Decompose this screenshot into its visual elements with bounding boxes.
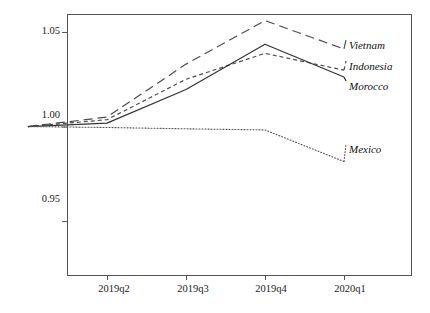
series-line-vietnam (28, 21, 344, 127)
series-label-vietnam: Vietnam (349, 39, 385, 51)
series-line-morocco (28, 44, 344, 126)
series-leader-indonesia (344, 61, 346, 70)
x-axis-tick-label-2019q3: 2019q3 (158, 283, 228, 294)
series-line-mexico (28, 127, 344, 162)
x-axis-tick-label-2020q1: 2020q1 (315, 283, 385, 294)
series-leader-morocco (344, 77, 346, 81)
y-axis-tick-label-0: 1.05 (18, 25, 60, 36)
x-axis-tick-label-2019q4: 2019q4 (236, 283, 306, 294)
x-axis-tick-label-2019q2: 2019q2 (79, 283, 149, 294)
y-axis-tick-label-2: 0.95 (18, 193, 60, 204)
series-leader-vietnam (344, 40, 346, 49)
series-leader-mexico (344, 144, 346, 162)
series-label-indonesia: Indonesia (349, 60, 392, 72)
y-axis-tick-label-1: 1.00 (18, 109, 60, 120)
series-label-morocco: Morocco (349, 80, 388, 92)
series-label-mexico: Mexico (349, 143, 381, 155)
chart-container: 1.05 1.00 0.95 2019q2 2019q3 2019q4 2020… (0, 0, 430, 313)
